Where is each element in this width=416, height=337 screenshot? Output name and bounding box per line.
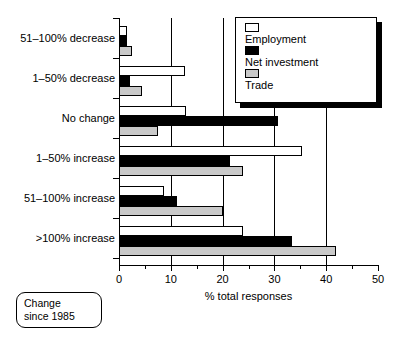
- annotation-line-2: since 1985: [24, 310, 101, 323]
- y-axis-line: [119, 18, 120, 266]
- bar-chart-figure: 0 10 20 30 40 50 51–100% decrease 1–50% …: [0, 0, 416, 337]
- bar-netinvestment-0: [119, 36, 127, 46]
- bar-trade-3: [119, 166, 243, 176]
- bar-employment-2: [119, 106, 186, 116]
- x-tick-minor-35: [300, 265, 301, 269]
- x-tick-label-50: 50: [372, 273, 384, 285]
- x-axis-title: % total responses: [119, 290, 378, 302]
- category-label-5: >100% increase: [7, 232, 119, 244]
- x-tick-minor-5: [145, 265, 146, 269]
- legend: Employment Net investment Trade: [235, 17, 377, 103]
- bar-netinvestment-2: [119, 116, 278, 126]
- bar-netinvestment-1: [119, 76, 130, 86]
- x-tick-major-40: [326, 265, 327, 271]
- x-tick-major-0: [119, 265, 120, 271]
- bar-trade-0: [119, 46, 132, 56]
- category-label-0: 51–100% decrease: [7, 32, 119, 44]
- x-tick-minor-25: [249, 265, 250, 269]
- legend-entry-trade: Trade: [245, 69, 376, 91]
- legend-swatch-trade-icon: [245, 69, 259, 78]
- bar-trade-2: [119, 126, 158, 136]
- bar-employment-5: [119, 226, 243, 236]
- bar-netinvestment-4: [119, 196, 177, 206]
- x-tick-minor-45: [352, 265, 353, 269]
- x-tick-major-10: [171, 265, 172, 271]
- annotation-box: Change since 1985: [16, 292, 102, 328]
- x-tick-label-40: 40: [320, 273, 332, 285]
- category-label-4: 51–100% increase: [7, 192, 119, 204]
- bar-employment-1: [119, 66, 185, 76]
- category-label-1: 1–50% decrease: [7, 72, 119, 84]
- x-tick-major-30: [274, 265, 275, 271]
- legend-entry-netinvestment: Net investment: [245, 46, 376, 68]
- bar-employment-4: [119, 186, 164, 196]
- bar-trade-4: [119, 206, 223, 216]
- legend-label-trade: Trade: [245, 79, 376, 91]
- x-tick-major-20: [223, 265, 224, 271]
- x-tick-major-50: [378, 265, 379, 271]
- x-tick-minor-15: [197, 265, 198, 269]
- category-label-2: No change: [7, 112, 119, 124]
- x-tick-label-20: 20: [216, 273, 228, 285]
- category-axis-labels: 51–100% decrease 1–50% decrease No chang…: [0, 0, 119, 337]
- bar-employment-3: [119, 146, 302, 156]
- bar-trade-5: [119, 246, 336, 256]
- annotation-line-1: Change: [24, 297, 101, 310]
- legend-swatch-netinvestment-icon: [245, 46, 259, 55]
- legend-swatch-employment-icon: [245, 23, 259, 32]
- x-tick-label-30: 30: [268, 273, 280, 285]
- legend-label-netinvestment: Net investment: [245, 56, 376, 68]
- x-tick-label-10: 10: [165, 273, 177, 285]
- bar-netinvestment-5: [119, 236, 292, 246]
- category-label-3: 1–50% increase: [7, 152, 119, 164]
- legend-entry-employment: Employment: [245, 23, 376, 45]
- legend-label-employment: Employment: [245, 33, 376, 45]
- bar-trade-1: [119, 86, 142, 96]
- bar-netinvestment-3: [119, 156, 230, 166]
